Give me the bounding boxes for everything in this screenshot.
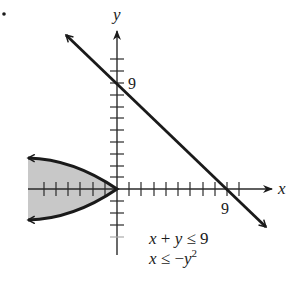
- problem-marker-dot: [2, 12, 6, 16]
- x-tick-label-9: 9: [221, 200, 229, 217]
- inequality-2: x ≤ −y2: [148, 247, 197, 268]
- graph-canvas: y x 9 9 x + y ≤ 9 x ≤ −y2: [0, 0, 296, 291]
- y-tick-label-9: 9: [128, 75, 136, 92]
- inequality-1: x + y ≤ 9: [148, 229, 209, 248]
- y-axis-label: y: [111, 5, 121, 24]
- x-axis-label: x: [277, 179, 286, 198]
